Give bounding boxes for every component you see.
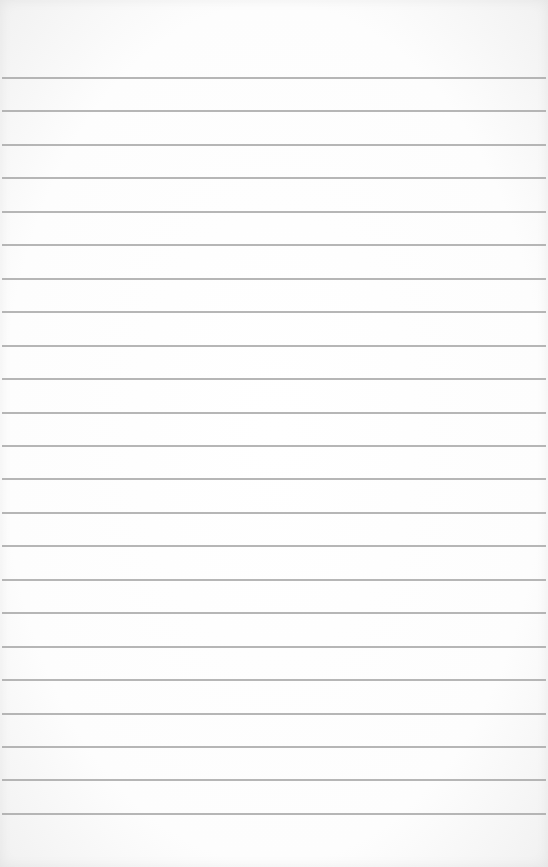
ruled-line <box>2 244 546 246</box>
ruled-line <box>2 345 546 347</box>
ruled-line <box>2 478 546 480</box>
ruled-line <box>2 779 546 781</box>
ruled-line <box>2 311 546 313</box>
ruled-line <box>2 646 546 648</box>
ruled-line <box>2 110 546 112</box>
ruled-line <box>2 713 546 715</box>
ruled-line <box>2 579 546 581</box>
ruled-line <box>2 512 546 514</box>
ruled-line <box>2 278 546 280</box>
ruled-line <box>2 445 546 447</box>
lined-paper <box>0 0 548 867</box>
ruled-line <box>2 545 546 547</box>
ruled-line <box>2 378 546 380</box>
ruled-line <box>2 77 546 79</box>
ruled-lines <box>0 0 548 867</box>
ruled-line <box>2 679 546 681</box>
ruled-line <box>2 746 546 748</box>
ruled-line <box>2 144 546 146</box>
ruled-line <box>2 211 546 213</box>
ruled-line <box>2 612 546 614</box>
ruled-line <box>2 412 546 414</box>
ruled-line <box>2 813 546 815</box>
ruled-line <box>2 177 546 179</box>
